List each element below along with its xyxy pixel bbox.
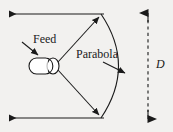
diameter-label: D [156, 58, 165, 70]
parabola-curve [101, 14, 119, 118]
feed-label: Feed [33, 33, 56, 45]
parabola-leader-arrow [103, 62, 125, 73]
parabolic-antenna-figure: Feed Parabola D [0, 0, 173, 132]
parabola-label: Parabola [76, 48, 118, 60]
feed-ray-lower [58, 70, 99, 115]
antenna-diagram-svg [0, 0, 173, 132]
